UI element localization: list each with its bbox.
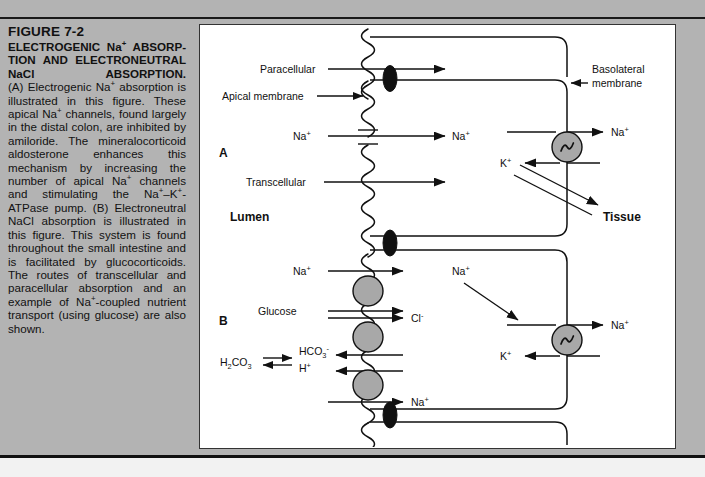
label-glucose: Glucose	[258, 305, 297, 317]
label-paracellular: Paracellular	[260, 63, 316, 75]
label-na-apical-b: Na+	[293, 264, 311, 277]
label-apical-membrane: Apical membrane	[222, 90, 304, 102]
figure-diagram-panel: Paracellular Apical membrane Na+ Na+ Tra…	[199, 24, 676, 449]
figure-number: FIGURE 7-2	[8, 24, 186, 39]
label-basolateral-line2: membrane	[592, 77, 642, 89]
figure-caption-text: ELECTROGENIC Na+ ABSORP­TION AND ELECTRO…	[8, 40, 186, 335]
panel-label-b: B	[219, 314, 228, 328]
label-h2co3: H2CO3	[220, 356, 252, 371]
apical-membrane-wave-3	[362, 145, 375, 257]
panel-label-a: A	[219, 146, 228, 160]
label-pump-b-k-in: K+	[500, 349, 511, 362]
label-lumen: Lumen	[230, 210, 269, 224]
cell-a-top-outline	[370, 37, 567, 77]
tight-junction-middle	[383, 230, 397, 256]
top-divider-rule	[0, 17, 705, 19]
cl-hco3-exchanger	[353, 322, 383, 352]
label-pump-a-k-in: K+	[500, 156, 511, 169]
tissue-arrow-line-upper	[514, 175, 592, 215]
apical-membrane-wave-2	[362, 81, 375, 137]
tight-junction-bottom	[383, 402, 397, 428]
apical-membrane-wave-1	[362, 29, 375, 99]
figure-page: FIGURE 7-2 ELECTROGENIC Na+ ABSORP­TION …	[0, 0, 705, 477]
tissue-arrow-line-lower	[520, 165, 598, 205]
figure-caption-title: ELECTROGENIC Na+ ABSORP­TION AND ELECTRO…	[8, 40, 186, 80]
page-bottom-margin	[0, 458, 705, 477]
label-pump-a-na-out: Na+	[611, 125, 629, 138]
label-pump-b-na-out: Na+	[611, 318, 629, 331]
label-na-cell-a: Na+	[452, 129, 470, 142]
cell-a-body-outline	[370, 80, 567, 236]
label-tissue: Tissue	[603, 210, 641, 224]
label-na-apical-a: Na+	[293, 129, 311, 142]
figure-caption-block: FIGURE 7-2 ELECTROGENIC Na+ ABSORP­TION …	[8, 24, 186, 335]
sglt-cotransporter	[353, 276, 383, 306]
label-basolateral-line1: Basolateral	[592, 63, 645, 75]
label-hco3: HCO3-	[299, 344, 329, 360]
label-na-apical-b-bottom: Na+	[411, 395, 429, 408]
diagram-svg-container: Paracellular Apical membrane Na+ Na+ Tra…	[200, 25, 675, 448]
epithelial-transport-diagram: Paracellular Apical membrane Na+ Na+ Tra…	[200, 25, 674, 447]
label-transcellular: Transcellular	[246, 176, 306, 188]
label-h-plus: H+	[299, 361, 311, 374]
label-chloride-out: Cl-	[411, 311, 424, 324]
cell-b-body-outline	[370, 250, 567, 409]
arrow-na-to-pump-b	[464, 283, 518, 320]
label-na-cell-b: Na+	[452, 264, 470, 277]
apical-membrane-wave-8	[362, 423, 375, 447]
na-h-exchanger	[353, 370, 383, 400]
equilibrium-arrow	[263, 358, 292, 365]
cell-b-bottom-outline	[370, 422, 567, 445]
figure-caption-body: (A) Electrogenic Na+ absorption is illus…	[8, 80, 186, 334]
